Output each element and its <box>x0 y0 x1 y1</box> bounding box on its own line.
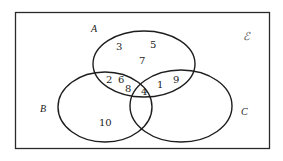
element-b-only: 10 <box>99 117 112 128</box>
set-b-label: B <box>40 103 46 114</box>
element-a-and-b-and-c: 4 <box>141 86 147 97</box>
venn-diagram: ℰ A B C 3 5 7 2 6 8 4 1 9 10 <box>0 0 283 161</box>
set-a-label: A <box>90 23 98 34</box>
universal-set-symbol: ℰ <box>243 30 251 43</box>
element-a-and-b: 2 <box>106 74 112 85</box>
set-c-ellipse <box>130 70 232 142</box>
element-a-and-b: 8 <box>125 83 131 94</box>
element-a-and-c: 9 <box>173 74 179 85</box>
element-a-only: 3 <box>116 41 122 52</box>
element-a-only: 7 <box>139 55 145 66</box>
set-c-label: C <box>241 106 248 117</box>
element-a-only: 5 <box>150 39 156 50</box>
element-a-and-c: 1 <box>157 79 163 90</box>
set-b-ellipse <box>58 72 152 142</box>
element-a-and-b: 6 <box>118 74 124 85</box>
